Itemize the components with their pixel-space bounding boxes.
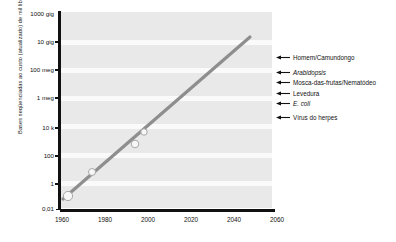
x-tick-label: 2040 (219, 216, 249, 223)
annotation-homem-camundongo: Homem/Camundongo (276, 54, 355, 61)
annotation-label: Mosca-das-frutas/Nematódeo (293, 79, 376, 86)
annotation-label: E. coli (293, 100, 310, 107)
left-arrow-icon (276, 114, 290, 121)
y-axis-tick-labels: 1000 gig 10 gig 100 meg 1 meg 10 k 100 1… (0, 0, 54, 242)
x-tick-label: 1980 (90, 216, 120, 223)
y-axis-tick (55, 41, 60, 43)
grid-band (60, 124, 272, 129)
annotation-label: Arabidopsis (293, 69, 326, 76)
left-arrow-icon (276, 79, 290, 86)
grid-band (60, 68, 272, 73)
y-tick-label: 1 (2, 180, 54, 187)
y-tick-label: 10 k (2, 124, 54, 131)
y-tick-label: 100 meg (2, 66, 54, 73)
annotation-label: Vírus do herpes (293, 114, 337, 121)
chart-figure: Bases seqüenciadas ao custo (atualizado)… (0, 0, 396, 242)
annotation-label: Levedura (293, 90, 319, 97)
grid-band (60, 96, 272, 101)
annotation-levedura: Levedura (276, 90, 319, 97)
left-arrow-icon (276, 100, 290, 107)
y-tick-label: 10 gig (2, 38, 54, 45)
annotation-list: Homem/Camundongo Arabidopsis Mosca-das-f… (276, 0, 396, 242)
annotation-label: Homem/Camundongo (293, 54, 355, 61)
annotation-mosca-nematodeo: Mosca-das-frutas/Nematódeo (276, 79, 376, 86)
x-axis-line (60, 209, 275, 212)
grid-band (60, 40, 272, 45)
annotation-virus-herpes: Vírus do herpes (276, 114, 337, 121)
y-tick-label: 1 meg (2, 94, 54, 101)
annotation-e-coli: E. coli (276, 100, 310, 107)
plot-area (60, 12, 272, 208)
left-arrow-icon (276, 69, 290, 76)
y-axis-tick (56, 209, 59, 210)
y-axis-tick (55, 183, 60, 185)
left-arrow-icon (276, 54, 290, 61)
left-arrow-icon (276, 90, 290, 97)
y-axis-tick (55, 97, 60, 99)
grid-band (60, 181, 272, 186)
x-tick-label: 2000 (133, 216, 163, 223)
y-axis-tick (55, 69, 60, 71)
annotation-arabidopsis: Arabidopsis (276, 69, 326, 76)
x-tick-label: 1960 (47, 216, 77, 223)
y-axis-tick (55, 127, 60, 129)
y-tick-label: 0,01 (2, 205, 54, 212)
y-tick-label: 100 (2, 152, 54, 159)
y-tick-label: 1000 gig (2, 10, 54, 17)
grid-band (60, 153, 272, 158)
y-axis-tick (55, 155, 60, 157)
x-tick-label: 2020 (176, 216, 206, 223)
